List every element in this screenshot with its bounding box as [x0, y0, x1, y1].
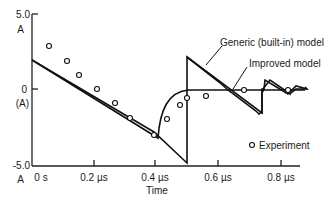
x-tick-label-0: 0 s	[34, 172, 47, 183]
legend-experiment-label: Experiment	[259, 140, 310, 151]
x-tick-label-1: 0.2 µs	[80, 172, 107, 183]
series-generic-model-ring	[262, 80, 307, 94]
series-improved-model	[32, 60, 305, 138]
y-tick-label-bot: -5.0	[13, 160, 31, 171]
y-tick-label-top: 5.0	[16, 9, 30, 20]
x-tick-label-4: 0.8 µs	[267, 172, 294, 183]
annotation-leader-improved	[233, 67, 247, 89]
annotation-leader-generic	[206, 46, 222, 65]
chart: 5.0 A 0 (A) -5.0 A 0 s 0.2 µs 0.4 µs 0.6…	[0, 0, 328, 208]
y-unit-label-mid: (A)	[16, 98, 29, 109]
x-axis-title: Time	[146, 185, 168, 196]
y-unit-label-bot: A	[17, 174, 24, 185]
y-tick-label-mid: 0	[21, 84, 27, 95]
y-unit-label-top: A	[17, 24, 24, 35]
x-tick-label-3: 0.6 µs	[204, 172, 231, 183]
x-tick-label-2: 0.4 µs	[141, 172, 168, 183]
legend-experiment-marker	[250, 143, 255, 148]
annotation-generic-model: Generic (built-in) model	[220, 37, 324, 48]
annotation-improved-model: Improved model	[249, 58, 321, 69]
